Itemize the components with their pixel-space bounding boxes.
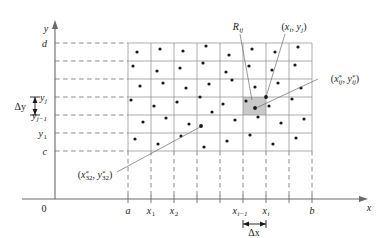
sample-dot — [210, 110, 213, 113]
sample-point-lower-dot — [199, 124, 203, 128]
sample-dot — [293, 63, 296, 66]
sample-dot — [247, 64, 250, 67]
sample-dot — [224, 70, 227, 73]
sample-dot — [181, 49, 184, 52]
sample-dot — [178, 66, 181, 69]
sample-dot — [201, 61, 204, 64]
sample-dot — [296, 45, 299, 48]
sample-dot — [279, 121, 282, 124]
sample-dot — [187, 122, 190, 125]
sample-dot — [271, 142, 274, 145]
sample-dot — [138, 84, 141, 87]
leader-sample-point-lower — [117, 127, 200, 172]
sample-dot — [230, 78, 233, 81]
riemann-partition-figure: y x 0 d yj yj−1 y1 c a x1 x2 xi−1 xi b — [0, 0, 387, 238]
x-tick-label-b: b — [310, 205, 315, 216]
y-tick-label-y1: y1 — [38, 128, 48, 141]
corner-point-dot — [264, 95, 268, 99]
sample-dot — [248, 133, 251, 136]
sample-dot — [250, 47, 253, 50]
sample-dot — [256, 115, 259, 118]
sample-dot — [290, 97, 293, 100]
sample-dot — [204, 44, 207, 47]
sample-dot — [161, 81, 164, 84]
y-axis-label: y — [43, 23, 49, 34]
sample-dot — [129, 98, 132, 101]
y-tick-label-c: c — [43, 146, 48, 157]
annotation-sample-point-lower: (x*32, y*32) — [78, 169, 113, 182]
x-tick-label-xi: xi — [262, 205, 270, 218]
sample-dot — [156, 142, 159, 145]
sample-dot — [152, 104, 155, 107]
sample-dot — [198, 95, 201, 98]
partition-grid — [128, 43, 312, 151]
origin-label: 0 — [42, 203, 47, 214]
sample-dot — [155, 69, 158, 72]
y-tick-label-d: d — [42, 38, 48, 49]
y-tick-label-yj: yj — [39, 92, 47, 105]
y-tick-labels: d yj yj−1 y1 c — [31, 38, 48, 157]
delta-y-label: Δy — [15, 101, 26, 112]
sample-dot — [164, 116, 167, 119]
sample-dot — [207, 82, 210, 85]
sample-dot — [202, 145, 205, 148]
sample-dot — [158, 47, 161, 50]
x-axis-label: x — [366, 202, 372, 213]
axes — [22, 20, 368, 202]
sample-dot — [135, 50, 138, 53]
sample-dot — [175, 100, 178, 103]
annotation-sample-point-right: (x*ij, y*ij) — [331, 73, 359, 86]
leader-sample-point-right — [256, 79, 318, 108]
sample-dot — [273, 50, 276, 53]
x-tick-label-x1: x1 — [146, 205, 156, 218]
y-axis-arrow — [52, 20, 58, 29]
x-tick-labels: a x1 x2 xi−1 xi b — [126, 205, 315, 218]
annotation-rij: Rij — [232, 21, 244, 34]
x-tick-label-x2: x2 — [169, 205, 179, 218]
sample-dot — [267, 104, 270, 107]
sample-dot — [184, 86, 187, 89]
y-guide-lines — [55, 43, 128, 151]
figure-canvas: y x 0 d yj yj−1 y1 c a x1 x2 xi−1 xi b — [0, 0, 387, 238]
delta-x-label: Δx — [248, 227, 259, 238]
leader-corner-point — [266, 34, 285, 97]
sample-dot — [302, 117, 305, 120]
sample-dot — [276, 81, 279, 84]
sample-dot — [131, 64, 134, 67]
sample-point-right-dot — [253, 106, 257, 110]
sample-dot — [270, 68, 273, 71]
sample-dot — [244, 99, 247, 102]
x-tick-label-xi-1: xi−1 — [231, 205, 247, 218]
x-tick-label-a: a — [126, 205, 131, 216]
sample-dot — [133, 137, 136, 140]
sample-dot — [225, 139, 228, 142]
sample-dot — [227, 53, 230, 56]
y-tick-label-yj-1: yj−1 — [31, 110, 47, 123]
sample-dot — [233, 118, 236, 121]
annotation-corner-point: (xi, yj) — [281, 21, 306, 34]
x-guide-lines — [128, 151, 312, 199]
sample-dot — [253, 85, 256, 88]
sample-dot — [221, 102, 224, 105]
sample-dot — [141, 120, 144, 123]
sample-dot — [294, 136, 297, 139]
